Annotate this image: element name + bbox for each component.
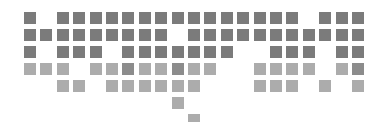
grid-cell: [254, 63, 266, 75]
grid-cell: [172, 12, 184, 24]
grid-cell: [155, 29, 167, 41]
grid-cell: [352, 46, 364, 58]
grid-cell: [57, 29, 69, 41]
grid-cell: [319, 12, 331, 24]
grid-cell: [286, 63, 298, 75]
grid-cell: [73, 12, 85, 24]
grid-cell: [155, 12, 167, 24]
grid-cell: [221, 29, 233, 41]
grid-cell: [106, 29, 118, 41]
grid-cell: [155, 80, 167, 92]
grid-cell: [122, 46, 134, 58]
grid-cell: [221, 46, 233, 58]
grid-cell: [155, 63, 167, 75]
grid-cell: [204, 12, 216, 24]
grid-cell: [319, 80, 331, 92]
grid-cell: [270, 80, 282, 92]
grid-cell: [270, 12, 282, 24]
grid-cell: [139, 80, 151, 92]
grid-cell: [172, 46, 184, 58]
grid-cell: [24, 12, 36, 24]
grid-cell: [204, 46, 216, 58]
grid-cell: [24, 63, 36, 75]
grid-cell: [303, 29, 315, 41]
grid-cell: [188, 114, 200, 122]
grid-cell: [270, 63, 282, 75]
grid-cell: [237, 12, 249, 24]
grid-cell: [172, 63, 184, 75]
grid-cell: [303, 63, 315, 75]
grid-cell: [40, 29, 52, 41]
grid-cell: [73, 46, 85, 58]
grid-cell: [57, 80, 69, 92]
grid-cell: [254, 29, 266, 41]
grid-cell: [73, 29, 85, 41]
grid-cell: [90, 12, 102, 24]
grid-cell: [336, 12, 348, 24]
square-grid-chart: [0, 0, 383, 122]
grid-cell: [106, 63, 118, 75]
grid-cell: [286, 29, 298, 41]
grid-cell: [24, 29, 36, 41]
grid-cell: [270, 46, 282, 58]
grid-cell: [188, 12, 200, 24]
grid-cell: [90, 46, 102, 58]
grid-cell: [286, 80, 298, 92]
grid-cell: [90, 63, 102, 75]
grid-cell: [254, 80, 266, 92]
grid-cell: [106, 80, 118, 92]
grid-cell: [352, 80, 364, 92]
grid-cell: [73, 80, 85, 92]
grid-cell: [122, 29, 134, 41]
grid-cell: [139, 29, 151, 41]
grid-cell: [270, 29, 282, 41]
grid-cell: [139, 46, 151, 58]
grid-cell: [188, 63, 200, 75]
grid-cell: [122, 12, 134, 24]
grid-cell: [286, 12, 298, 24]
grid-cell: [319, 29, 331, 41]
grid-cell: [286, 46, 298, 58]
grid-cell: [352, 12, 364, 24]
grid-cell: [221, 12, 233, 24]
grid-cell: [204, 29, 216, 41]
grid-cell: [172, 80, 184, 92]
grid-cell: [122, 80, 134, 92]
grid-cell: [254, 12, 266, 24]
grid-cell: [204, 63, 216, 75]
grid-cell: [122, 63, 134, 75]
grid-cell: [352, 63, 364, 75]
grid-cell: [40, 63, 52, 75]
grid-cell: [57, 46, 69, 58]
grid-cell: [57, 63, 69, 75]
grid-cell: [336, 63, 348, 75]
grid-cell: [336, 46, 348, 58]
grid-cell: [303, 46, 315, 58]
grid-cell: [57, 12, 69, 24]
grid-cell: [237, 29, 249, 41]
grid-cell: [106, 12, 118, 24]
grid-cell: [139, 12, 151, 24]
grid-cell: [188, 80, 200, 92]
grid-cell: [155, 46, 167, 58]
grid-cell: [24, 46, 36, 58]
grid-cell: [188, 46, 200, 58]
grid-cell: [188, 29, 200, 41]
grid-cell: [139, 63, 151, 75]
grid-cell: [352, 29, 364, 41]
grid-cell: [90, 29, 102, 41]
grid-cell: [336, 29, 348, 41]
grid-cell: [172, 97, 184, 109]
